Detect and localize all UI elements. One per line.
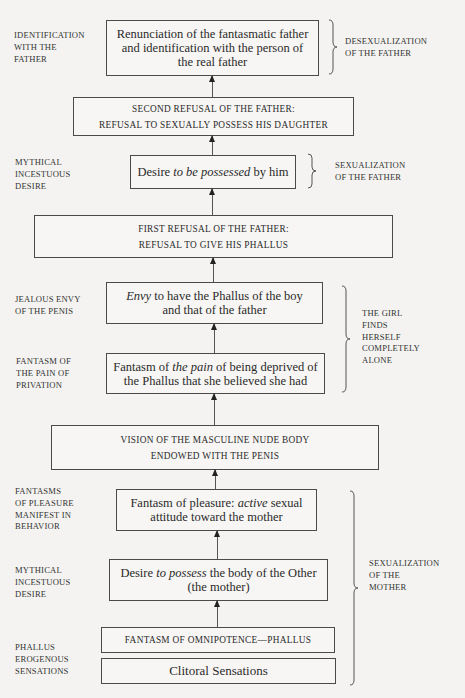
- arrow-up-icon: [215, 470, 216, 489]
- label-girl-alone: THE GIRL FINDS HERSELF COMPLETELY ALONE: [362, 308, 420, 367]
- label-mythical-incestuous-2: MYTHICAL INCESTUOUS DESIRE: [15, 565, 70, 600]
- box-fantasm-pain: Fantasm of the pain of being deprived of…: [106, 353, 325, 394]
- box-text: REFUSAL TO GIVE HIS PHALLUS: [139, 237, 288, 253]
- box-text-italic: the pain: [172, 360, 213, 374]
- label-sexualization-mother: SEXUALIZATION OF THE MOTHER: [369, 558, 439, 593]
- box-omnipotence: FANTASM OF OMNIPOTENCE—PHALLUS: [101, 627, 335, 653]
- label-mythical-incestuous-1: MYTHICAL INCESTUOUS DESIRE: [15, 157, 70, 192]
- box-text: and identification with the person of: [122, 41, 304, 55]
- box-text: the Phallus that she believed she had: [124, 374, 307, 388]
- box-renunciation: Renunciation of the fantasmatic father a…: [106, 20, 319, 76]
- box-fantasm-pleasure: Fantasm of pleasure: active sexual attit…: [116, 489, 317, 531]
- label-sexualization-father: SEXUALIZATION OF THE FATHER: [335, 160, 405, 184]
- box-text: Clitoral Sensations: [169, 664, 268, 678]
- box-text: sexual: [268, 496, 303, 510]
- label-phallus-erogenous: PHALLUS EROGENOUS SENSATIONS: [15, 642, 69, 677]
- box-text-italic: Envy: [126, 289, 151, 303]
- box-text: Fantasm of: [113, 360, 172, 374]
- arrow-up-icon: [212, 136, 213, 155]
- box-text-italic: active: [238, 496, 268, 510]
- box-text: Desire: [137, 165, 173, 179]
- arrow-up-icon: [212, 189, 213, 215]
- box-text: FIRST REFUSAL OF THE FATHER:: [138, 221, 289, 237]
- arrow-up-icon: [217, 601, 218, 627]
- box-text: by him: [250, 165, 288, 179]
- box-text: the real father: [178, 55, 247, 69]
- box-text: FANTASM OF OMNIPOTENCE—PHALLUS: [125, 632, 311, 648]
- arrow-up-icon: [214, 394, 215, 425]
- box-text: ENDOWED WITH THE PENIS: [151, 448, 279, 464]
- brace-icon: [328, 19, 338, 75]
- box-envy: Envy to have the Phallus of the boy and …: [106, 282, 323, 324]
- box-text: and that of the father: [162, 303, 266, 317]
- arrow-up-icon: [214, 324, 215, 353]
- box-text: VISION OF THE MASCULINE NUDE BODY: [120, 432, 309, 448]
- box-text: REFUSAL TO SEXUALLY POSSESS HIS DAUGHTER: [99, 117, 328, 133]
- box-text: Fantasm of pleasure:: [130, 496, 237, 510]
- label-fantasm-privation: FANTASM OF THE PAIN OF PRIVATION: [16, 356, 71, 391]
- arrow-up-icon: [217, 531, 218, 559]
- box-second-refusal: SECOND REFUSAL OF THE FATHER: REFUSAL TO…: [73, 97, 354, 136]
- box-text: to have the Phallus of the boy: [151, 289, 303, 303]
- label-fantasms-pleasure: FANTASMS OF PLEASURE MANIFEST IN BEHAVIO…: [15, 486, 74, 533]
- brace-icon: [349, 490, 359, 686]
- label-desexualization-father: DESEXUALIZATION OF THE FATHER: [345, 36, 427, 60]
- box-text: attitude toward the mother: [150, 510, 282, 524]
- box-text-italic: to possess: [156, 566, 206, 580]
- arrow-up-icon: [213, 258, 214, 282]
- brace-icon: [307, 153, 317, 189]
- label-identification: IDENTIFICATION WITH THE FATHER: [14, 30, 85, 65]
- label-jealous-envy: JEALOUS ENVY OF THE PENIS: [15, 294, 81, 318]
- box-text: Desire: [120, 566, 156, 580]
- box-text: the body of the Other: [207, 566, 317, 580]
- box-first-refusal: FIRST REFUSAL OF THE FATHER: REFUSAL TO …: [34, 215, 393, 258]
- box-text: SECOND REFUSAL OF THE FATHER:: [132, 101, 295, 117]
- box-vision: VISION OF THE MASCULINE NUDE BODY ENDOWE…: [51, 425, 379, 470]
- box-text: of being deprived of: [213, 360, 318, 374]
- brace-icon: [341, 285, 351, 393]
- box-clitoral: Clitoral Sensations: [101, 658, 336, 684]
- box-desire-possessed: Desire to be possessed by him: [130, 155, 296, 189]
- box-text-italic: to be possessed: [173, 165, 250, 179]
- box-text: (the mother): [187, 580, 249, 594]
- box-desire-possess: Desire to possess the body of the Other …: [109, 559, 328, 601]
- arrow-up-icon: [212, 76, 213, 97]
- box-text: Renunciation of the fantasmatic father: [117, 27, 309, 41]
